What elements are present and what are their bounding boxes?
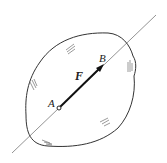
label-b: B [99,52,106,64]
rigid-body-diagram: A B F [0,0,167,163]
label-a: A [47,97,55,109]
hatch-marks [30,44,132,145]
point-a-marker [57,106,61,110]
label-f: F [74,69,83,83]
